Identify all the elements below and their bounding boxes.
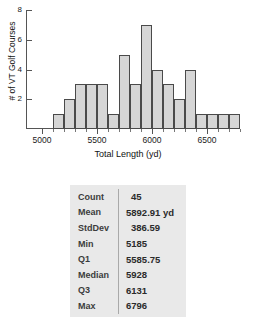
- histogram-bar: [141, 25, 152, 129]
- y-axis-title: # of VT Golf Courses: [7, 5, 17, 117]
- histogram-bar: [229, 114, 240, 129]
- x-tick-minor-5600: [108, 129, 109, 132]
- x-tick-minor-6800: [240, 129, 241, 132]
- histogram-bar: [196, 114, 207, 129]
- stat-row: Median5928: [70, 267, 186, 283]
- histogram-bar: [174, 99, 185, 129]
- stat-value: 6131: [119, 285, 186, 296]
- x-tick-label-5000: 5000: [24, 136, 60, 145]
- histogram-bar: [185, 70, 196, 130]
- stat-row: Mean5892.91 yd: [70, 205, 186, 221]
- stat-label: Q1: [70, 254, 118, 264]
- histogram-bar: [218, 114, 229, 129]
- stat-row: Q36131: [70, 283, 186, 299]
- histogram-bar: [64, 99, 75, 129]
- x-tick-minor-5700: [119, 129, 120, 132]
- stat-row: Count45: [70, 189, 186, 205]
- histogram-bar: [163, 84, 174, 129]
- x-tick-6000: [152, 129, 153, 134]
- stat-label: Median: [70, 270, 118, 280]
- stat-value: 5892.91 yd: [119, 207, 186, 218]
- stat-label: StdDev: [70, 223, 118, 233]
- x-tick-minor-6200: [174, 129, 175, 132]
- stat-label: Mean: [70, 207, 118, 217]
- stat-value: 386.59: [119, 222, 186, 233]
- x-tick-5500: [97, 129, 98, 134]
- x-tick-minor-6700: [229, 129, 230, 132]
- histogram-bar: [108, 114, 119, 129]
- histogram-bar: [75, 84, 86, 129]
- stat-value: 5928: [119, 269, 186, 280]
- x-tick-minor-5200: [64, 129, 65, 132]
- histogram-bar: [152, 70, 163, 130]
- stat-row: Q15585.75: [70, 251, 186, 267]
- x-tick-label-5500: 5500: [79, 136, 115, 145]
- x-tick-minor-6400: [196, 129, 197, 132]
- x-tick-minor-5900: [141, 129, 142, 132]
- x-tick-minor-5100: [53, 129, 54, 132]
- stat-value: 6796: [119, 300, 186, 311]
- summary-statistics-table: Count45Mean5892.91 ydStdDev386.59Min5185…: [70, 185, 186, 317]
- stat-label: Min: [70, 239, 118, 249]
- plot-area: [26, 10, 240, 129]
- x-tick-minor-5300: [75, 129, 76, 132]
- stat-row: StdDev386.59: [70, 220, 186, 236]
- stat-label: Q3: [70, 285, 118, 295]
- stat-label: Max: [70, 301, 118, 311]
- histogram-bar: [119, 55, 130, 129]
- histogram-bar: [130, 84, 141, 129]
- x-tick-minor-6300: [185, 129, 186, 132]
- histogram-bar: [207, 114, 218, 129]
- stat-row: Max6796: [70, 298, 186, 314]
- histogram-bar: [53, 114, 64, 129]
- histogram-bar: [86, 84, 97, 129]
- x-tick-label-6000: 6000: [134, 136, 170, 145]
- x-tick-label-6500: 6500: [189, 136, 225, 145]
- stat-label: Count: [70, 192, 118, 202]
- histogram-chart: 2468 5000550060006500 # of VT Golf Cours…: [0, 0, 256, 172]
- stat-row: Min5185: [70, 236, 186, 252]
- x-tick-minor-5400: [86, 129, 87, 132]
- stat-value: 5585.75: [119, 254, 186, 265]
- stat-value: 45: [119, 191, 186, 202]
- stat-value: 5185: [119, 238, 186, 249]
- x-tick-minor-5800: [130, 129, 131, 132]
- x-tick-5000: [42, 129, 43, 134]
- histogram-bar: [97, 84, 108, 129]
- x-tick-6500: [207, 129, 208, 134]
- x-tick-minor-6600: [218, 129, 219, 132]
- x-tick-minor-6100: [163, 129, 164, 132]
- x-axis-title: Total Length (yd): [0, 149, 256, 159]
